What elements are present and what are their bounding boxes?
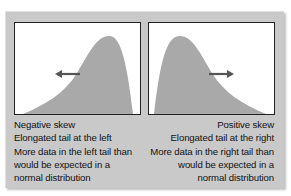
caption-line: normal distribution	[144, 171, 274, 184]
caption-line: would be expected in a	[144, 158, 274, 171]
negative-skew-caption: Negative skew Elongated tail at the left…	[14, 118, 144, 184]
skew-comparison-frame: Negative skew Elongated tail at the left…	[5, 11, 284, 188]
negative-skew-graph	[14, 22, 141, 115]
positive-skew-graph	[148, 22, 275, 115]
caption-line: would be expected in a	[14, 158, 144, 171]
caption-title: Negative skew	[14, 118, 144, 131]
positive-skew-curve	[149, 23, 274, 114]
negative-skew-curve	[15, 23, 140, 114]
caption-title: Positive skew	[144, 118, 274, 131]
caption-line: Elongated tail at the left	[14, 131, 144, 144]
caption-line: normal distribution	[14, 171, 144, 184]
caption-line: Elongated tail at the right	[144, 131, 274, 144]
caption-line: More data in the left tail than	[14, 145, 144, 158]
positive-skew-caption: Positive skew Elongated tail at the righ…	[144, 118, 274, 184]
caption-line: More data in the right tail than	[144, 145, 274, 158]
